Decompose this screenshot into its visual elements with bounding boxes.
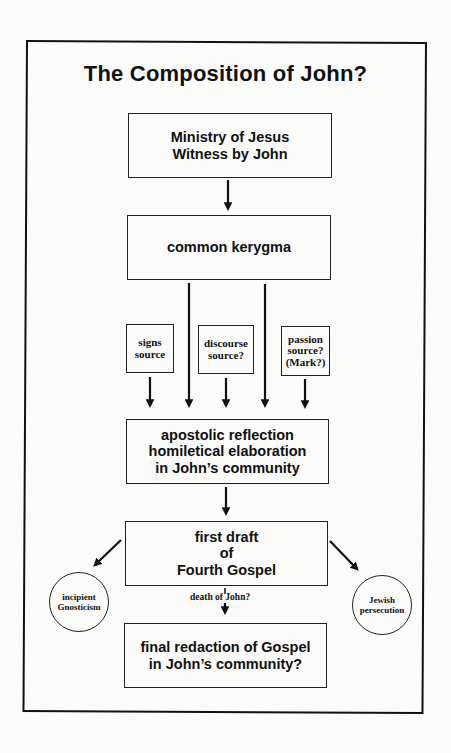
node-ministry: Ministry of Jesus Witness by John: [128, 113, 332, 178]
diagram-title: The Composition of John?: [0, 61, 451, 87]
node-persecution: Jewish persecution: [352, 575, 412, 635]
node-signs-source: signs source: [126, 324, 174, 373]
node-kerygma-label: common kerygma: [167, 239, 291, 256]
node-passion-source: passion source? (Mark?): [281, 326, 330, 376]
node-final: final redaction of Gospel in John’s comm…: [124, 623, 327, 688]
node-discourse-source-label: discourse source?: [204, 338, 248, 361]
node-discourse-source: discourse source?: [198, 325, 254, 374]
edge-label-death: death of John?: [190, 592, 250, 602]
node-persecution-label: Jewish persecution: [360, 595, 405, 616]
node-final-label: final redaction of Gospel in John’s comm…: [141, 639, 311, 672]
node-apostolic-label: apostolic reflection homiletical elabora…: [149, 427, 307, 477]
node-first-draft-label: first draft of Fourth Gospel: [177, 529, 276, 579]
node-first-draft: first draft of Fourth Gospel: [125, 521, 328, 586]
node-ministry-label: Ministry of Jesus Witness by John: [171, 129, 289, 162]
node-kerygma: common kerygma: [127, 215, 331, 280]
node-gnosticism: incipient Gnosticism: [49, 572, 109, 632]
node-apostolic: apostolic reflection homiletical elabora…: [126, 419, 329, 484]
node-signs-source-label: signs source: [135, 337, 165, 360]
node-passion-source-label: passion source? (Mark?): [286, 334, 326, 369]
node-gnosticism-label: incipient Gnosticism: [57, 592, 100, 613]
